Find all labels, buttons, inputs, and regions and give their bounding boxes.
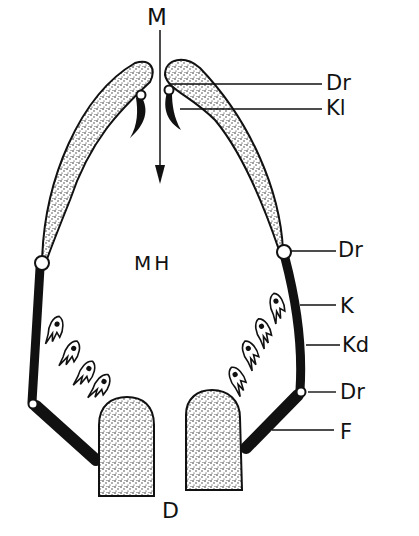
label-m: M <box>147 6 167 29</box>
left-teeth <box>45 315 114 404</box>
left-bottom-block <box>99 397 154 496</box>
left-side-bar <box>32 268 40 402</box>
right-teeth <box>225 292 288 397</box>
left-bottom-bar <box>36 406 96 460</box>
right-bottom-bar <box>246 395 298 448</box>
label-kl: Kl <box>326 98 346 119</box>
diagram-canvas <box>0 0 419 536</box>
label-dr-middle: Dr <box>338 240 363 261</box>
leader-lines <box>170 84 340 430</box>
left-hook <box>130 96 145 138</box>
label-dr-upper: Dr <box>326 73 351 94</box>
label-mh: MH <box>134 253 172 273</box>
diagram: M MH D Dr Kl Dr K Kd Dr F <box>0 0 419 536</box>
left-upper-lobe <box>42 62 153 262</box>
right-side-bar <box>285 258 301 390</box>
label-dr-lower: Dr <box>340 382 365 403</box>
arrow-down-icon <box>155 30 165 184</box>
label-d: D <box>162 500 179 522</box>
label-k: K <box>340 296 354 317</box>
right-hook <box>165 92 181 130</box>
label-kd: Kd <box>342 335 369 356</box>
right-bottom-block <box>186 390 242 490</box>
label-f: F <box>340 422 352 443</box>
right-upper-lobe <box>165 60 283 250</box>
